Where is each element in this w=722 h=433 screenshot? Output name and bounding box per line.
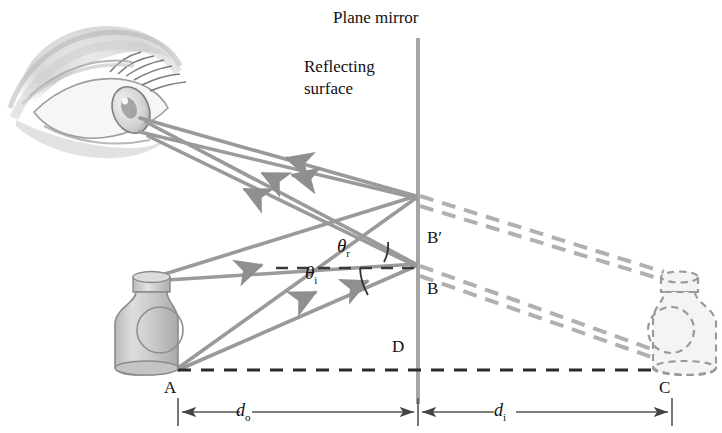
do-subscript: o xyxy=(245,411,251,423)
angle-reflection-symbol: θ xyxy=(337,235,346,256)
virtual-ray-4 xyxy=(420,276,660,360)
angle-incidence-subscript: i xyxy=(314,274,317,286)
do-symbol: d xyxy=(236,400,245,420)
image-bottle xyxy=(648,272,716,376)
virtual-ray-1 xyxy=(420,196,664,272)
dimension-label-image-distance: di xyxy=(494,400,506,423)
page-title: Plane mirror xyxy=(333,8,418,27)
point-label-c: C xyxy=(659,378,670,397)
angle-reflection-subscript: r xyxy=(346,247,350,259)
angle-incidence-symbol: θ xyxy=(305,262,314,283)
point-label-d: D xyxy=(392,337,404,356)
virtual-rays-group xyxy=(420,196,664,360)
reflecting-surface-label-line2: surface xyxy=(304,79,353,98)
point-label-a: A xyxy=(164,378,176,397)
di-subscript: i xyxy=(503,411,506,423)
di-symbol: d xyxy=(494,400,503,420)
dimension-label-object-distance: do xyxy=(236,400,251,423)
angle-label-incidence: θi xyxy=(305,262,317,286)
reflected-ray-1 xyxy=(140,118,416,196)
virtual-ray-2 xyxy=(420,206,664,280)
plane-mirror-ray-diagram: Plane mirror Reflecting surface A B′ B D… xyxy=(0,0,722,433)
object-bottle xyxy=(115,272,183,376)
reflecting-surface-label-line1: Reflecting xyxy=(304,57,375,76)
angle-label-reflection: θr xyxy=(337,235,350,259)
reflected-ray-4 xyxy=(148,136,416,266)
light-rays-group xyxy=(140,118,416,370)
point-label-b: B xyxy=(427,279,438,298)
virtual-ray-3 xyxy=(420,266,660,352)
reflected-ray-3 xyxy=(146,122,416,264)
point-label-b-prime: B′ xyxy=(427,228,442,247)
dimension-lines xyxy=(178,398,672,426)
